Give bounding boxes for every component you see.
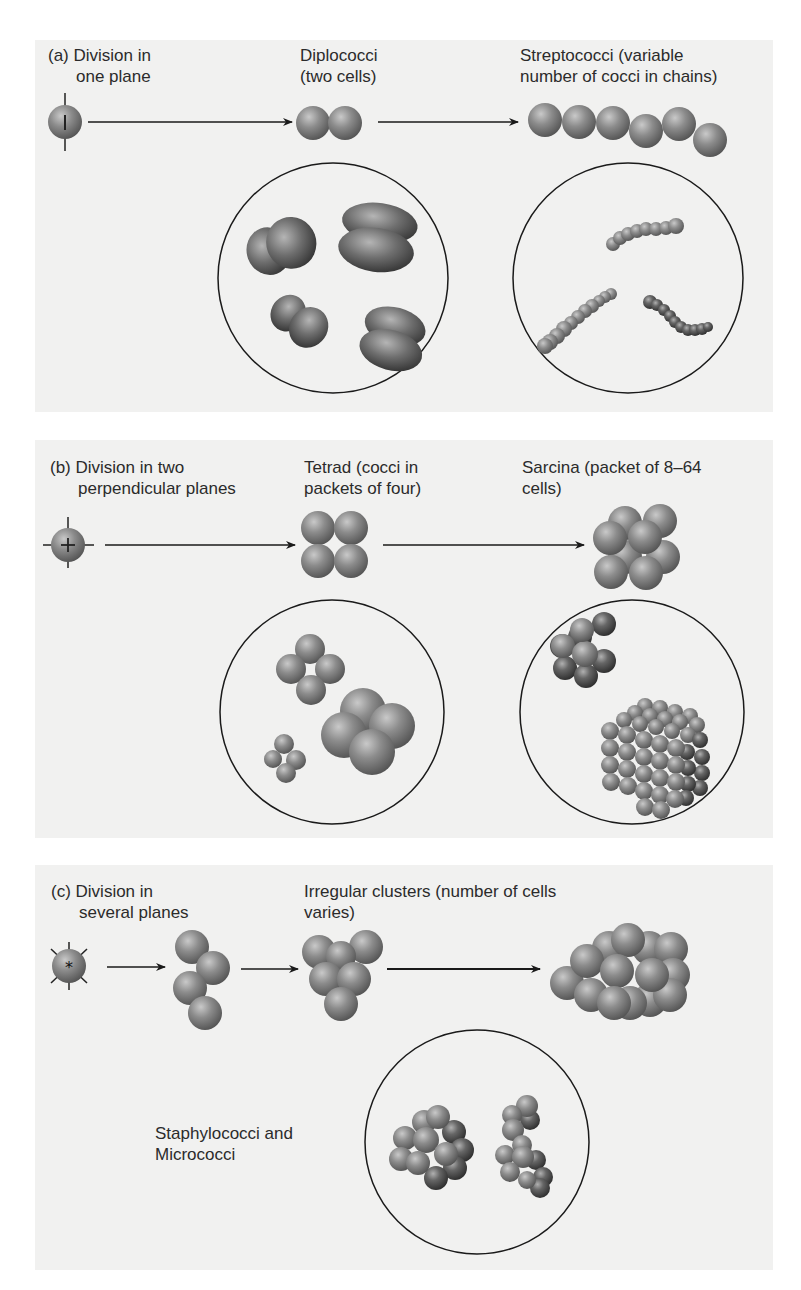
division-one-plane-icon: [48, 93, 82, 151]
tetrad-label: Tetrad (cocci in packets of four): [304, 457, 421, 499]
division-several-planes-icon: *: [51, 942, 87, 990]
streptococci-chain-icon: [528, 103, 727, 157]
streptococci-label: Streptococci (variable number of cocci i…: [520, 45, 717, 87]
staph-cluster-2: [495, 1095, 553, 1198]
sarcina-label: Sarcina (packet of 8–64 cells): [522, 457, 702, 499]
chain-3: [643, 295, 713, 336]
sarcina-micrograph: [520, 600, 744, 824]
staphylococci-caption: Staphylococci and Micrococci: [155, 1123, 293, 1165]
cocci-arrangement-diagram: *: [0, 0, 801, 1290]
division-two-planes-icon: [43, 517, 94, 568]
diplococci-label: Diplococci (two cells): [300, 45, 377, 87]
chain-1: [606, 218, 684, 251]
panel-c-art: *: [51, 923, 690, 1254]
svg-text:*: *: [65, 958, 73, 977]
panel-b-art: [43, 504, 744, 824]
staphylococci-micrograph: [365, 1030, 589, 1254]
panel-b-heading: (b) Division in two perpendicular planes: [50, 457, 236, 499]
diplococci-micrograph: [218, 163, 448, 393]
tetrad-micrograph: [220, 600, 444, 824]
irregular-cluster-large-icon: [550, 923, 690, 1020]
sarcina-icon: [593, 504, 680, 590]
chain-2: [537, 288, 617, 354]
early-cluster-icon: [173, 930, 230, 1030]
irregular-cluster-small-icon: [302, 930, 383, 1021]
panel-c-heading: (c) Division in several planes: [51, 881, 189, 923]
large-sarcina-cube: [601, 698, 710, 819]
streptococci-micrograph: [513, 163, 743, 393]
staph-cluster-1: [389, 1105, 474, 1190]
panel-a-heading: (a) Division in one plane: [48, 45, 151, 87]
irregular-clusters-label: Irregular clusters (number of cells vari…: [304, 881, 556, 923]
tetrad-icon: [301, 511, 368, 578]
small-sarcina-packet: [550, 612, 616, 688]
panel-a-art: [48, 93, 743, 393]
diplococci-icon: [296, 106, 362, 140]
